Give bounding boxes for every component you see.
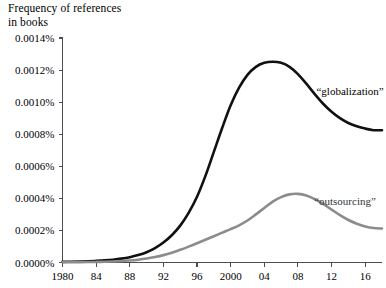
x-tick-label: 04 bbox=[259, 270, 271, 282]
y-tick-label: 0.0014% bbox=[15, 32, 54, 44]
y-tick-label: 0.0004% bbox=[15, 192, 54, 204]
y-tick-label: 0.0012% bbox=[15, 64, 54, 76]
y-axis-tick-labels: 0.0000%0.0002%0.0004%0.0006%0.0008%0.001… bbox=[15, 32, 54, 269]
y-axis-group: 0.0000%0.0002%0.0004%0.0006%0.0008%0.001… bbox=[15, 32, 62, 269]
y-tick-label: 0.0008% bbox=[15, 128, 54, 140]
line-chart-plot: 0.0000%0.0002%0.0004%0.0006%0.0008%0.001… bbox=[0, 0, 386, 288]
x-axis-ticks bbox=[63, 263, 366, 267]
x-tick-label: 92 bbox=[158, 270, 169, 282]
x-tick-label: 88 bbox=[124, 270, 136, 282]
x-tick-label: 08 bbox=[292, 270, 304, 282]
x-axis-tick-labels: 198084889296200004081216 bbox=[52, 270, 372, 282]
y-axis-ticks bbox=[59, 38, 63, 263]
x-tick-label: 16 bbox=[360, 270, 372, 282]
x-tick-label: 96 bbox=[192, 270, 204, 282]
x-tick-label: 84 bbox=[91, 270, 103, 282]
x-tick-label: 1980 bbox=[52, 270, 75, 282]
y-tick-label: 0.0006% bbox=[15, 160, 54, 172]
x-tick-label: 12 bbox=[326, 270, 337, 282]
y-tick-label: 0.0000% bbox=[15, 257, 54, 269]
x-axis-group: 198084889296200004081216 bbox=[52, 263, 383, 282]
chart-container: Frequency of references in books 0.0000%… bbox=[0, 0, 386, 288]
y-tick-label: 0.0010% bbox=[15, 96, 54, 108]
series-label-outsourcing: “outsourcing” bbox=[314, 195, 376, 207]
series-label-globalization: “globalization” bbox=[316, 85, 383, 97]
x-tick-label: 2000 bbox=[220, 270, 243, 282]
series-inline-labels: “globalization”“outsourcing” bbox=[314, 85, 384, 207]
y-tick-label: 0.0002% bbox=[15, 224, 54, 236]
